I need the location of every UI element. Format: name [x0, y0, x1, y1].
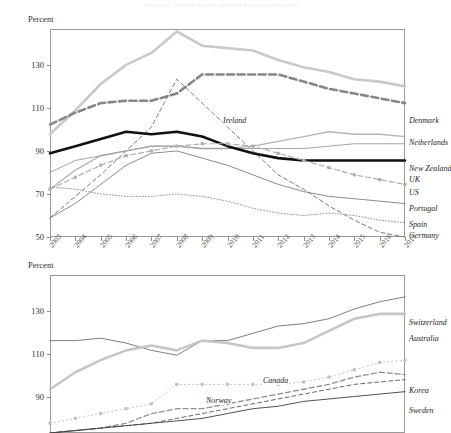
series-marker-portugal — [175, 145, 178, 148]
series-marker-portugal — [251, 145, 254, 148]
series-marker-canada — [378, 361, 381, 364]
series-marker-portugal — [99, 164, 102, 167]
series-label-spain: Spain — [409, 220, 427, 229]
series-marker-portugal — [150, 149, 153, 152]
series-marker-portugal — [302, 159, 305, 162]
series-line-korea — [50, 380, 405, 433]
series-marker-canada — [74, 417, 77, 420]
chart-panel-1: Percent 130 110 90 70 50 200320042005200… — [0, 12, 443, 258]
panel-1-series-canvas — [0, 12, 443, 258]
series-label-australia: Australia — [409, 334, 439, 343]
series-marker-canada — [226, 383, 229, 386]
series-line-us — [50, 132, 405, 161]
series-label-portugal: Portugal — [409, 204, 437, 213]
series-label-sweden: Sweden — [409, 406, 433, 415]
series-marker-portugal — [353, 173, 356, 176]
series-label-uk: UK — [409, 175, 420, 184]
series-marker-canada — [99, 412, 102, 415]
series-marker-canada — [251, 383, 254, 386]
series-marker-portugal — [124, 154, 127, 157]
series-marker-portugal — [403, 183, 406, 186]
series-label-switzerland: Switzerland — [409, 318, 447, 327]
series-label-ireland: Ireland — [222, 116, 247, 125]
series-label-netherlands: Netherlands — [409, 138, 448, 147]
series-marker-canada — [327, 375, 330, 378]
series-marker-portugal — [378, 178, 381, 181]
series-marker-portugal — [327, 166, 330, 169]
series-marker-portugal — [201, 142, 204, 145]
series-marker-canada — [48, 422, 51, 425]
series-marker-canada — [124, 407, 127, 410]
series-marker-portugal — [74, 176, 77, 179]
series-marker-canada — [150, 402, 153, 405]
series-label-denmark: Denmark — [409, 116, 439, 125]
series-marker-canada — [302, 380, 305, 383]
panel-2-series-canvas — [0, 258, 443, 433]
series-marker-portugal — [48, 188, 51, 191]
series-marker-portugal — [277, 152, 280, 155]
series-line-germany — [50, 187, 405, 223]
series-marker-canada — [403, 358, 406, 361]
series-line-switzerland — [50, 297, 405, 355]
series-marker-canada — [353, 368, 356, 371]
series-marker-canada — [175, 383, 178, 386]
series-marker-portugal — [226, 142, 229, 145]
figure-title: Figure 5. Trends in the relative house p… — [0, 1, 443, 8]
chart-panel-2: Percent 130 110 90 SwitzerlandAustraliaK… — [0, 258, 443, 433]
series-label-norway: Norway — [205, 396, 232, 405]
series-marker-canada — [201, 383, 204, 386]
series-label-korea: Korea — [409, 386, 429, 395]
series-label-new-zealand: New Zealand — [409, 164, 451, 173]
series-label-germany: Germany — [409, 231, 439, 240]
series-label-canada: Canada — [262, 376, 289, 385]
series-label-us: US — [409, 188, 419, 197]
